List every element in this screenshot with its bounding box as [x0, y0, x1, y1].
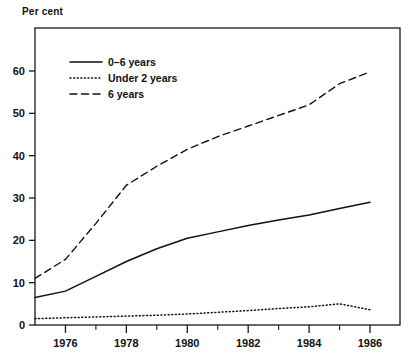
x-tick-label: 1980 — [175, 337, 199, 349]
legend-label-2: Under 2 years — [108, 72, 178, 84]
plot-frame — [35, 28, 400, 325]
y-tick-label: 60 — [13, 65, 25, 77]
series-line-2 — [35, 304, 370, 319]
x-axis-ticks: 197619781980198219841986 — [53, 325, 382, 349]
line-chart-plot: 0102030405060 197619781980198219841986 0… — [0, 0, 412, 362]
y-tick-label: 10 — [13, 277, 25, 289]
y-tick-label: 20 — [13, 234, 25, 246]
y-tick-label: 40 — [13, 150, 25, 162]
chart-container: Per cent 0102030405060 19761978198019821… — [0, 0, 412, 362]
y-tick-label: 0 — [19, 319, 25, 331]
x-tick-label: 1978 — [114, 337, 138, 349]
legend-label-3: 6 years — [108, 88, 144, 100]
y-tick-label: 50 — [13, 107, 25, 119]
x-tick-label: 1982 — [236, 337, 260, 349]
y-tick-label: 30 — [13, 192, 25, 204]
series-line-3 — [35, 72, 370, 279]
chart-legend: 0–6 yearsUnder 2 years6 years — [70, 56, 178, 100]
x-tick-label: 1984 — [297, 337, 322, 349]
data-series-group — [35, 72, 370, 319]
x-tick-label: 1986 — [358, 337, 382, 349]
legend-label-1: 0–6 years — [108, 56, 156, 68]
series-line-1 — [35, 202, 370, 297]
y-axis-ticks: 0102030405060 — [13, 65, 35, 331]
x-tick-label: 1976 — [53, 337, 77, 349]
